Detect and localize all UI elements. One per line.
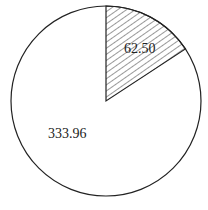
- pie-chart: 62.50 333.96: [0, 0, 208, 210]
- slice-label-small: 62.50: [124, 41, 156, 56]
- slice-label-large: 333.96: [48, 126, 87, 141]
